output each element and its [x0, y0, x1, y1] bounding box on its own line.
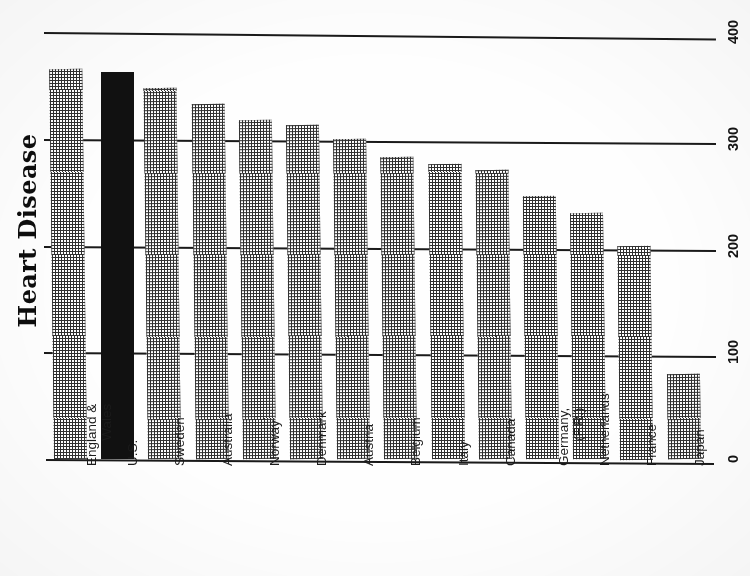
y-tick-200: 200 — [716, 237, 750, 255]
bar — [49, 69, 87, 459]
y-tick-label: 400 — [725, 20, 741, 44]
x-category-label-line1: U.S. — [125, 440, 140, 466]
bar — [101, 72, 134, 460]
y-tick-400: 400 — [716, 23, 750, 41]
y-tick-100: 100 — [716, 343, 750, 361]
x-category-label-line1: Austria — [361, 424, 376, 466]
x-category-label-line1: Italy — [456, 441, 471, 466]
bar — [239, 119, 276, 459]
bar-series — [44, 26, 716, 462]
y-tick-300: 300 — [716, 130, 750, 148]
x-category-label-line1: Belgium — [408, 417, 423, 466]
bar — [191, 103, 228, 459]
x-category-label: Japan — [692, 466, 750, 500]
x-category-label-line1: England & — [84, 404, 99, 466]
plot-area — [44, 26, 716, 462]
bar — [428, 164, 465, 459]
x-category-label-line1: France — [644, 424, 659, 466]
x-category-label-line1: Australia — [220, 413, 235, 466]
x-category-label-line1: Canada — [503, 419, 518, 466]
x-category-label-line2: (F.R.) — [571, 408, 586, 466]
chart-page: Heart Disease 0100200300400 England &Wal… — [0, 0, 750, 576]
x-category-label-line1: Germany, — [556, 408, 571, 466]
bar — [144, 87, 182, 459]
y-tick-label: 0 — [725, 455, 741, 463]
x-axis-category-labels: England &WalesU.S.SwedenAustraliaNorwayD… — [44, 466, 716, 576]
y-tick-label: 200 — [725, 233, 741, 257]
bar — [381, 157, 418, 459]
bar — [286, 125, 323, 460]
x-category-label-line1: Denmark — [314, 411, 329, 466]
bar — [523, 196, 559, 459]
x-category-label-line2: Wales — [99, 404, 114, 466]
x-category-label-line1: Sweden — [172, 417, 187, 466]
bar — [333, 139, 370, 460]
x-category-label-line1: Japan — [692, 429, 707, 466]
bar — [475, 170, 512, 460]
y-tick-label: 300 — [725, 127, 741, 151]
y-tick-label: 100 — [725, 340, 741, 364]
chart-title-text: Heart Disease — [14, 133, 43, 327]
x-category-label-line1: Norway — [267, 420, 282, 466]
x-category-label-line1: Netherlands — [597, 393, 612, 466]
